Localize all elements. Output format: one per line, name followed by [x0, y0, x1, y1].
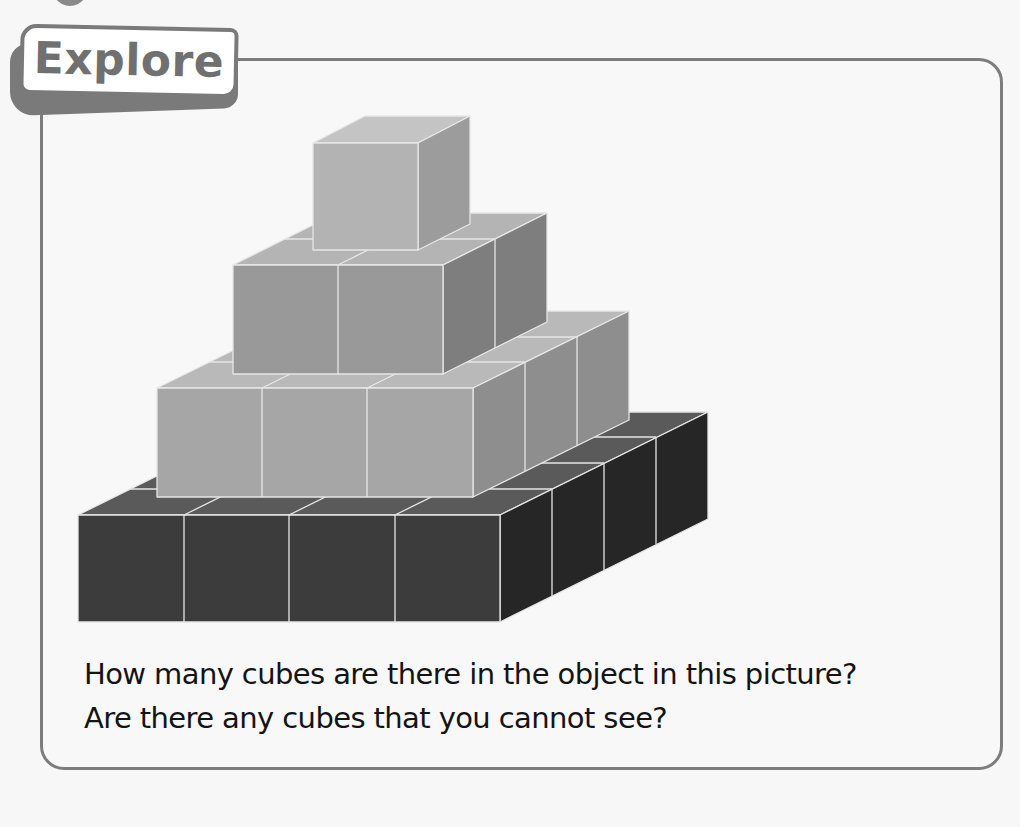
question-count-cubes: How many cubes are there in the object i… — [84, 652, 984, 696]
top-cube — [313, 116, 470, 250]
question-hidden-cubes: Are there any cubes that you cannot see? — [84, 696, 984, 740]
explore-questions: How many cubes are there in the object i… — [84, 652, 984, 740]
